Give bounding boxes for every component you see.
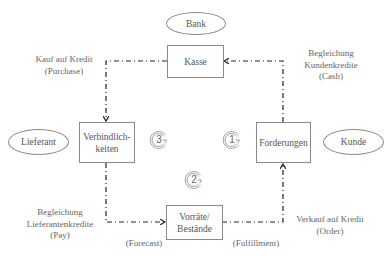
node-verbindlichkeiten-line2: keiten [95, 143, 118, 155]
cycle-icon-3: 3 [148, 129, 170, 151]
entity-lieferant-label: Lieferant [21, 137, 56, 147]
entity-bank-label: Bank [186, 19, 206, 29]
cycle-number-3: 3 [148, 129, 170, 151]
label-cash: Begleichung Kundenkredite (Cash) [296, 48, 366, 83]
node-vorraete-line1: Vorräte/ [179, 211, 209, 223]
cycle-icon-2: 2 [183, 169, 205, 191]
label-order: Verkauf auf Kredit (Order) [290, 214, 370, 237]
node-forderungen-label: Forderungen [259, 137, 308, 149]
label-purchase-line2: (Purchase) [34, 66, 94, 78]
edge-order [222, 164, 283, 222]
entity-kunde: Kunde [323, 129, 384, 155]
label-pay-line3: (Pay) [24, 230, 96, 242]
label-forecast: (Forecast) [116, 238, 172, 250]
label-pay: Begleichung Lieferantenkredite (Pay) [24, 207, 96, 242]
label-pay-line1: Begleichung [24, 207, 96, 219]
cycle-icon-1: 1 [221, 129, 243, 151]
label-fulfillment: (Fulfillment) [226, 238, 286, 250]
cycle-number-2: 2 [183, 169, 205, 191]
entity-lieferant: Lieferant [8, 129, 69, 155]
edge-purchase [106, 61, 167, 121]
node-verbindlichkeiten-line1: Verbindlich- [83, 131, 131, 143]
label-cash-line2: Kundenkredite [296, 60, 366, 72]
cycle-number-1: 1 [221, 129, 243, 151]
edge-cash [224, 61, 283, 122]
node-kasse: Kasse [167, 45, 224, 78]
entity-kunde-label: Kunde [341, 137, 366, 147]
label-purchase: Kauf auf Kredit (Purchase) [34, 54, 94, 77]
label-cash-line3: (Cash) [296, 71, 366, 83]
label-purchase-line1: Kauf auf Kredit [34, 54, 94, 66]
entity-bank: Bank [166, 12, 226, 35]
label-order-line2: (Order) [290, 226, 370, 238]
label-order-line1: Verkauf auf Kredit [290, 214, 370, 226]
node-vorraete: Vorräte/ Bestände [166, 205, 223, 240]
label-pay-line2: Lieferantenkredite [24, 219, 96, 231]
node-kasse-label: Kasse [184, 56, 207, 68]
label-cash-line1: Begleichung [296, 48, 366, 60]
node-vorraete-line2: Bestände [177, 223, 212, 235]
node-forderungen: Forderungen [256, 122, 311, 163]
edge-pay [106, 163, 165, 222]
node-verbindlichkeiten: Verbindlich- keiten [79, 122, 135, 163]
